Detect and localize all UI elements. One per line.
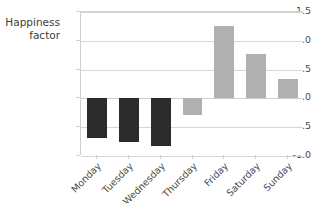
gridline-1	[81, 41, 303, 42]
x-tick-mark	[96, 155, 97, 159]
bar-sunday	[278, 79, 298, 98]
bar-friday	[214, 26, 234, 99]
x-tick-mark	[255, 155, 256, 159]
gridline-0_5	[81, 70, 303, 71]
bar-thursday	[183, 98, 203, 114]
bar-wednesday	[151, 98, 171, 145]
x-tick-mark	[128, 155, 129, 159]
bar-saturday	[246, 54, 266, 98]
x-tick-label-monday: Monday	[11, 161, 103, 203]
gridline-neg0_5	[81, 127, 303, 128]
x-tick-mark	[223, 155, 224, 159]
bar-chart-figure: Happiness factor 1.51.00.50.0-0.5-1.0 Mo…	[0, 0, 311, 203]
plot-area	[80, 11, 303, 155]
y-axis-label: Happiness factor	[0, 16, 60, 42]
x-tick-mark	[287, 155, 288, 159]
x-tick-mark	[160, 155, 161, 159]
x-tick-mark	[192, 155, 193, 159]
gridline-1_5	[81, 12, 303, 13]
bar-monday	[87, 98, 107, 138]
y-tick-mark	[76, 155, 80, 156]
bar-tuesday	[119, 98, 139, 142]
